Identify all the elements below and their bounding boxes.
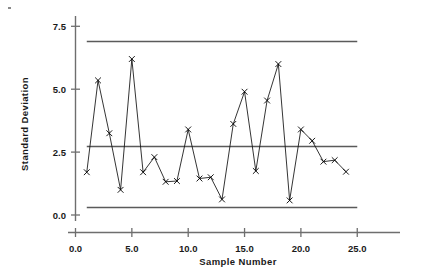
x-tick-label: 25.0 — [348, 243, 367, 254]
scan-artifact — [8, 7, 11, 9]
control-chart: 0.02.55.07.5 0.05.010.015.020.025.0 Stan… — [0, 0, 426, 278]
x-tick-label: 15.0 — [235, 243, 254, 254]
x-axis-title: Sample Number — [199, 256, 277, 267]
chart-canvas: 0.02.55.07.5 0.05.010.015.020.025.0 Stan… — [0, 0, 426, 278]
x-tick-label: 5.0 — [125, 243, 138, 254]
y-tick-label: 5.0 — [53, 84, 66, 95]
x-tick-label: 10.0 — [179, 243, 198, 254]
data-point — [343, 169, 349, 175]
y-axis-title: Standard Deviation — [19, 77, 30, 171]
data-point-markers — [84, 56, 349, 203]
y-tick-label: 7.5 — [53, 21, 67, 32]
control-limit-lines — [87, 41, 357, 207]
data-point — [151, 154, 157, 160]
y-tick-label: 0.0 — [53, 210, 66, 221]
x-tick-label: 20.0 — [292, 243, 311, 254]
data-point — [309, 138, 315, 144]
data-point — [185, 127, 191, 133]
y-tick-label: 2.5 — [53, 147, 67, 158]
data-series-line — [87, 59, 346, 200]
x-tick-label: 0.0 — [69, 243, 82, 254]
